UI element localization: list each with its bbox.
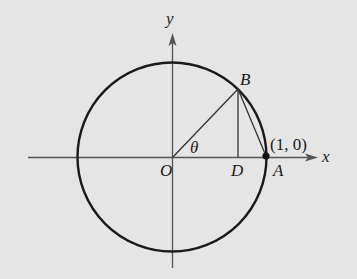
label-point-a: A <box>272 161 284 180</box>
label-point-d: D <box>230 161 244 180</box>
x-axis-label: x <box>321 147 330 166</box>
radius-ob <box>173 89 239 158</box>
label-angle-theta: θ <box>190 138 198 157</box>
y-axis-label: y <box>164 9 174 28</box>
label-a-coordinates: (1, 0) <box>270 135 307 154</box>
label-point-b: B <box>240 70 251 89</box>
unit-circle-diagram: y x O B D A (1, 0) θ <box>0 0 357 279</box>
label-origin: O <box>160 161 172 180</box>
point-a-dot <box>262 152 269 159</box>
chord-ba <box>238 89 266 156</box>
